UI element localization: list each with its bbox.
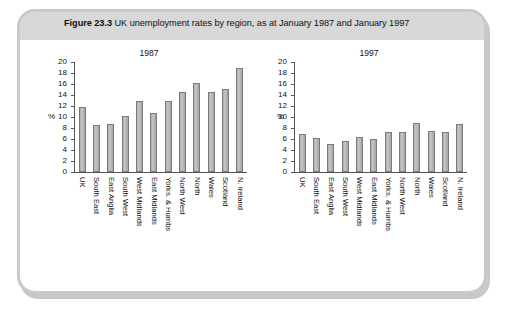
bar-slot	[204, 62, 218, 172]
x-label-slot: North	[190, 174, 204, 260]
bar	[327, 144, 334, 172]
bar-slot	[118, 62, 132, 172]
x-tick-label: UK	[298, 177, 306, 188]
bar	[208, 92, 215, 172]
x-tick-label: North	[413, 177, 421, 196]
bar	[299, 134, 306, 173]
y-tick-label: 6	[63, 135, 67, 143]
x-label-slot: Yorks. & Humbs	[161, 174, 175, 260]
chart-1987-x-axis	[74, 172, 247, 173]
figure-title: Figure 23.3 UK unemployment rates by reg…	[64, 18, 409, 28]
y-tick: 0	[291, 172, 294, 173]
y-tick-label: 12	[278, 102, 287, 110]
bar	[456, 124, 463, 172]
y-tick: 8	[291, 128, 294, 129]
bar-slot	[89, 62, 103, 172]
bar	[413, 123, 420, 172]
bar	[136, 101, 143, 173]
x-tick-label: Yorks. & Humbs	[164, 177, 172, 231]
bar	[193, 83, 200, 172]
bar-slot	[233, 62, 247, 172]
y-tick-label: 2	[283, 157, 287, 165]
y-tick: 14	[71, 95, 74, 96]
y-tick: 16	[291, 84, 294, 85]
x-tick-label: South West	[121, 177, 129, 216]
x-tick-label: East Anglia	[327, 177, 335, 215]
bar	[107, 124, 114, 172]
y-tick-label: 18	[58, 69, 67, 77]
x-label-slot: N. Ireland	[453, 174, 467, 260]
x-label-slot: N. Ireland	[233, 174, 247, 260]
x-tick-label: East Midlands	[150, 177, 158, 225]
y-tick-label: 20	[278, 58, 287, 66]
x-label-slot: West Midlands	[352, 174, 366, 260]
bar-slot	[453, 62, 467, 172]
x-tick-label: N. Ireland	[456, 177, 464, 210]
chart-1987-y-axis-label: %	[48, 113, 55, 121]
x-label-slot: Scotland	[218, 174, 232, 260]
bar	[179, 92, 186, 172]
y-tick: 8	[71, 128, 74, 129]
chart-1997-x-axis	[294, 172, 467, 173]
y-tick: 12	[291, 106, 294, 107]
x-label-slot: East Anglia	[104, 174, 118, 260]
bar-slot	[352, 62, 366, 172]
bar-slot	[218, 62, 232, 172]
chart-1987-bars	[75, 62, 247, 172]
x-tick-label: North West	[399, 177, 407, 215]
chart-1987-plot-area: % 02468101214161820	[74, 62, 247, 172]
y-tick-label: 20	[58, 58, 67, 66]
y-tick-label: 2	[63, 157, 67, 165]
y-tick: 4	[71, 150, 74, 151]
bar	[342, 141, 349, 172]
x-tick-label: East Anglia	[107, 177, 115, 215]
y-tick-label: 16	[58, 80, 67, 88]
y-tick-label: 6	[283, 135, 287, 143]
x-label-slot: West Midlands	[132, 174, 146, 260]
bar	[150, 113, 157, 172]
y-tick-label: 8	[63, 124, 67, 132]
x-label-slot: East Midlands	[367, 174, 381, 260]
x-label-slot: East Midlands	[147, 174, 161, 260]
bar-slot	[132, 62, 146, 172]
y-tick-label: 14	[278, 91, 287, 99]
chart-1997-x-labels: UKSouth EastEast AngliaSouth WestWest Mi…	[295, 174, 467, 260]
bar-slot	[161, 62, 175, 172]
x-tick-label: N. Ireland	[236, 177, 244, 210]
y-tick: 0	[71, 172, 74, 173]
y-tick: 10	[291, 117, 294, 118]
bar	[442, 132, 449, 172]
bar-slot	[338, 62, 352, 172]
bar-slot	[295, 62, 309, 172]
bar-slot	[424, 62, 438, 172]
chart-1987-x-labels: UKSouth EastEast AngliaSouth WestWest Mi…	[75, 174, 247, 260]
bar	[79, 107, 86, 172]
x-label-slot: South West	[118, 174, 132, 260]
figure-panel: Figure 23.3 UK unemployment rates by reg…	[17, 9, 487, 294]
y-tick: 16	[71, 84, 74, 85]
chart-1997-plot-area: % 02468101214161820	[294, 62, 467, 172]
y-tick-label: 10	[58, 113, 67, 121]
x-label-slot: North West	[395, 174, 409, 260]
y-tick: 20	[291, 62, 294, 63]
x-tick-label: South East	[93, 177, 101, 214]
y-tick: 6	[71, 139, 74, 140]
x-tick-label: Wales	[427, 177, 435, 198]
y-tick-label: 10	[278, 113, 287, 121]
bar	[313, 138, 320, 172]
y-tick: 20	[71, 62, 74, 63]
x-tick-label: West Midlands	[136, 177, 144, 227]
x-label-slot: South East	[89, 174, 103, 260]
bar	[356, 137, 363, 172]
x-tick-label: West Midlands	[356, 177, 364, 227]
x-tick-label: South West	[341, 177, 349, 216]
x-label-slot: South West	[338, 174, 352, 260]
x-tick-label: Wales	[207, 177, 215, 198]
y-tick-label: 0	[63, 168, 67, 176]
y-tick-label: 4	[283, 146, 287, 154]
chart-1987-title: 1987	[38, 48, 260, 58]
x-tick-label: Yorks. & Humbs	[384, 177, 392, 231]
x-tick-label: Scotland	[222, 177, 230, 207]
x-label-slot: North	[410, 174, 424, 260]
bar-slot	[309, 62, 323, 172]
